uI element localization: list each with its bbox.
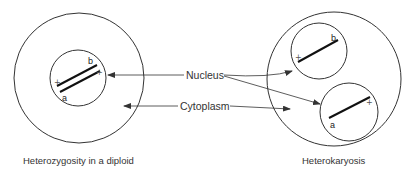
heterokaryon-nucleus-bottom [320,83,378,141]
gene-label-b: b [88,56,93,66]
wildtype-plus-marker: + [295,53,302,62]
cytoplasm-arrow-right [230,106,290,109]
nucleus-arrow-right-top [224,71,292,76]
wildtype-plus-marker: + [54,78,61,87]
wildtype-plus-marker: + [96,68,103,77]
cytoplasm-pointers: Cytoplasm [124,100,290,112]
caption-heterokaryosis: Heterokaryosis [302,155,366,166]
nucleus-arrow-right-bottom [224,76,320,104]
heterokaryon-cell: b + a + [267,12,401,146]
gene-label-a: a [62,93,67,103]
gene-label-b: b [331,33,336,43]
wildtype-plus-marker: + [366,98,373,107]
nucleus-pointers: Nucleus [108,69,320,104]
gene-label-a: a [330,120,335,130]
diploid-cell-membrane [14,13,144,143]
nucleus-label: Nucleus [186,69,224,81]
diploid-cell: b a + + [14,13,144,143]
caption-diploid: Heterozygosity in a diploid [23,155,134,166]
cytoplasm-label: Cytoplasm [180,100,230,112]
chromosome-a [329,97,370,118]
chromosome-b [298,40,338,62]
diagram-canvas: b a + + b + a + Nucleus Cytoplasm Hetero… [0,0,405,171]
